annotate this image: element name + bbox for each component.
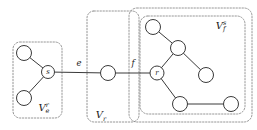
node-n-f-top [146, 20, 161, 35]
node-n-f-right [199, 68, 214, 83]
node-n-left-bottom [17, 91, 32, 106]
edge-label-edge-f: f [130, 58, 136, 68]
nodes-layer: sr [17, 20, 239, 112]
node-label-n-s: s [46, 68, 50, 76]
graph-diagram-figure: sr ef VreVrVsf [0, 0, 257, 130]
group-label-group-ve-r: Vre [39, 101, 50, 115]
edges-layer [24, 27, 231, 104]
edge-edge-e [48, 72, 108, 73]
node-n-f-botright [224, 97, 239, 112]
group-labels-layer: VreVrVsf [39, 19, 227, 123]
node-n-left-top [17, 46, 32, 61]
group-label-subscript-group-ve-r: e [46, 107, 50, 115]
group-label-subscript-group-vr: r [103, 115, 107, 123]
node-n-f-mid [171, 41, 186, 56]
edge-label-edge-e: e [76, 58, 81, 68]
diagram-canvas: sr ef VreVrVsf [0, 0, 257, 130]
group-label-group-vr: Vr [96, 109, 107, 123]
node-n-f-botleft [173, 97, 188, 112]
node-n-mid [101, 66, 116, 81]
group-label-group-vf-s: Vsf [216, 19, 227, 33]
